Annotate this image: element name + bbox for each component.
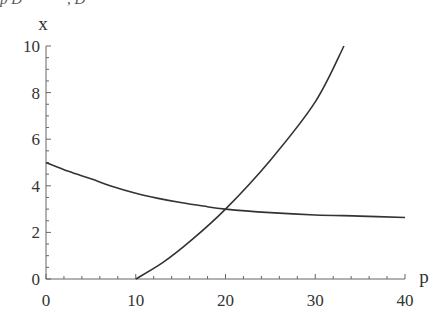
y-tick-label: 6 xyxy=(32,130,41,149)
x-tick-label: 10 xyxy=(127,291,144,310)
axes: 0102030400246810px xyxy=(23,13,429,310)
x-axis-label: p xyxy=(419,266,429,287)
chart: 0102030400246810px xyxy=(0,0,444,318)
y-tick-label: 8 xyxy=(32,84,41,103)
y-tick-label: 0 xyxy=(32,270,41,289)
x-tick-label: 40 xyxy=(397,291,414,310)
y-tick-label: 10 xyxy=(23,37,40,56)
y-tick-label: 4 xyxy=(32,177,41,196)
x-tick-label: 30 xyxy=(307,291,324,310)
y-tick-label: 2 xyxy=(32,223,41,242)
series xyxy=(46,46,405,279)
x-tick-label: 0 xyxy=(42,291,51,310)
x-tick-label: 20 xyxy=(217,291,234,310)
y-axis-label: x xyxy=(38,13,48,34)
supply-curve xyxy=(136,46,344,279)
